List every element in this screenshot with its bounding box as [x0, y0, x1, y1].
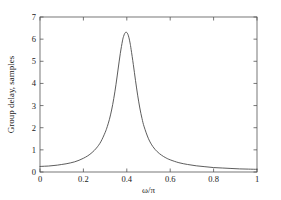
x-tick-label: 0.2	[78, 174, 89, 184]
figure-container: 00.20.40.60.81 01234567 ω/π Group delay,…	[0, 0, 281, 200]
x-tick-label: 0.8	[208, 174, 219, 184]
y-tick-label: 2	[32, 123, 36, 133]
y-tick-label: 1	[32, 145, 36, 155]
x-tick-label: 0.4	[121, 174, 132, 184]
y-tick-label: 3	[32, 101, 36, 111]
group-delay-chart: 00.20.40.60.81 01234567 ω/π Group delay,…	[0, 0, 281, 200]
x-tick-label: 0	[38, 174, 42, 184]
chart-background	[0, 0, 281, 200]
x-tick-label: 0.6	[165, 174, 176, 184]
y-tick-label: 0	[32, 167, 36, 177]
y-tick-label: 7	[32, 12, 36, 22]
y-tick-label: 5	[32, 56, 36, 66]
x-axis-label: ω/π	[142, 185, 155, 195]
y-axis-label: Group delay, samples	[6, 55, 16, 133]
y-tick-label: 6	[32, 34, 36, 44]
x-tick-label: 1	[255, 174, 259, 184]
